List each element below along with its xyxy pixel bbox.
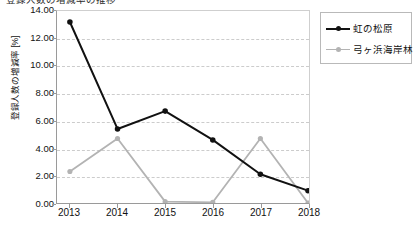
y-tick-label: 12.00 [8,33,54,43]
legend-label: 虹の松原 [353,23,393,34]
x-tick-label: 2014 [94,206,140,220]
legend-item-nijinomatsubara: 虹の松原 [326,18,407,39]
y-tick-label: 14.00 [8,5,54,15]
series-line-nijinomatsubara [67,19,309,193]
y-tick-label: 6.00 [8,116,54,126]
legend-item-yumigahama: 弓ヶ浜海岸林 [326,39,407,60]
x-tick-label: 2018 [286,206,332,220]
plot-area [56,10,310,204]
x-tick-label: 2016 [190,206,236,220]
legend-marker-icon [326,44,350,56]
x-axis-tick-labels: 2013 2014 2015 2016 2017 2018 [56,206,312,226]
y-tick-mark [52,204,56,205]
y-tick-label: 8.00 [8,88,54,98]
legend-marker-icon [326,23,350,35]
x-tick-label: 2017 [238,206,284,220]
series-line-yumigahama [67,136,309,203]
y-tick-label: 10.00 [8,60,54,70]
legend-label: 弓ヶ浜海岸林 [353,44,413,55]
y-tick-label: 4.00 [8,144,54,154]
x-tick-label: 2015 [142,206,188,220]
x-tick-label: 2013 [46,206,92,220]
y-tick-label: 2.00 [8,171,54,181]
y-axis-tick-labels: 14.00 12.00 10.00 8.00 6.00 4.00 2.00 0.… [8,0,54,229]
series-lines [57,11,309,203]
chart-legend: 虹の松原 弓ヶ浜海岸林 [320,12,412,64]
